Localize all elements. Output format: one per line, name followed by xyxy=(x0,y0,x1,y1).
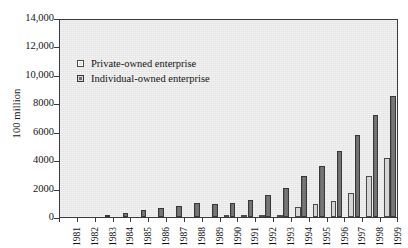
legend-item-private-owned: Private-owned enterprise xyxy=(77,56,210,71)
x-axis-tick-label: 1992 xyxy=(268,220,278,246)
bar-individual-owned xyxy=(319,166,325,217)
y-axis-tick-label: 10,000 xyxy=(6,70,54,80)
legend-label-private-owned: Private-owned enterprise xyxy=(91,58,196,69)
bar-group xyxy=(203,20,221,217)
x-axis-tick-label: 1999 xyxy=(393,220,403,246)
x-axis-tick-label: 1981 xyxy=(72,220,82,246)
x-axis-tick-label: 1995 xyxy=(322,220,332,246)
bar-group xyxy=(381,20,398,217)
x-axis-tick-label: 1988 xyxy=(197,220,207,246)
bars-layer xyxy=(60,20,397,217)
y-axis-tick-label: 12,000 xyxy=(6,41,54,51)
y-axis-tick-label: 8000 xyxy=(6,98,54,108)
x-axis-tick-label: 1994 xyxy=(304,220,314,246)
x-axis-tick-label: 1983 xyxy=(108,220,118,246)
bar-private-owned xyxy=(313,204,319,217)
y-axis-tick-labels: 14,00012,00010,00080006000400020000 xyxy=(0,0,54,248)
bar-group xyxy=(131,20,149,217)
bar-group xyxy=(256,20,274,217)
bar-group xyxy=(149,20,167,217)
bar-individual-owned xyxy=(301,176,307,217)
plot-area xyxy=(59,19,398,218)
y-axis-tick-label: 4000 xyxy=(6,155,54,165)
legend-swatch-icon-private-owned xyxy=(77,60,84,67)
bar-private-owned xyxy=(224,215,230,217)
bar-individual-owned xyxy=(337,151,343,217)
bar-group xyxy=(310,20,328,217)
bar-individual-owned xyxy=(265,195,271,217)
x-axis-tick-label: 1987 xyxy=(179,220,189,246)
bar-individual-owned xyxy=(123,213,129,217)
bar-group xyxy=(60,20,78,217)
x-axis-tick-labels: 1981198219831984198519861987198819891990… xyxy=(59,222,398,248)
bar-private-owned xyxy=(331,201,337,217)
bar-group xyxy=(185,20,203,217)
bar-individual-owned xyxy=(158,208,164,217)
bar-group xyxy=(274,20,292,217)
x-axis-tick-label: 1982 xyxy=(90,220,100,246)
bar-individual-owned xyxy=(355,135,361,217)
legend-label-individual-owned: Individual-owned enterprise xyxy=(91,73,210,84)
x-axis-tick-label: 1990 xyxy=(233,220,243,246)
x-axis-tick-label: 1984 xyxy=(125,220,135,246)
bar-group xyxy=(167,20,185,217)
bar-group xyxy=(221,20,239,217)
x-axis-tick-label: 1991 xyxy=(250,220,260,246)
bar-individual-owned xyxy=(230,203,236,217)
x-axis-tick-label: 1993 xyxy=(286,220,296,246)
legend: Private-owned enterprise Individual-owne… xyxy=(73,54,214,88)
bar-private-owned xyxy=(295,207,301,217)
bar-group xyxy=(292,20,310,217)
bar-group xyxy=(363,20,381,217)
bar-individual-owned xyxy=(176,206,182,217)
bar-group xyxy=(114,20,132,217)
x-axis-tick-label: 1997 xyxy=(357,220,367,246)
bar-private-owned xyxy=(277,215,283,217)
y-axis-tick-label: 14,000 xyxy=(6,13,54,23)
x-axis-tick-label: 1989 xyxy=(215,220,225,246)
x-axis-tick-label: 1996 xyxy=(340,220,350,246)
y-axis-tick-label: 2000 xyxy=(6,184,54,194)
bar-individual-owned xyxy=(105,215,111,217)
bar-individual-owned xyxy=(283,188,289,217)
bar-individual-owned xyxy=(390,96,396,217)
y-axis-tick-label: 0 xyxy=(6,212,54,222)
x-axis-tick-label: 1986 xyxy=(161,220,171,246)
bar-group xyxy=(96,20,114,217)
bar-private-owned xyxy=(259,215,265,217)
legend-swatch-icon-individual-owned xyxy=(77,75,84,82)
bar-private-owned xyxy=(348,193,354,217)
y-axis-tick-label: 6000 xyxy=(6,127,54,137)
bar-individual-owned xyxy=(248,200,254,217)
bar-group xyxy=(238,20,256,217)
legend-item-individual-owned: Individual-owned enterprise xyxy=(77,71,210,86)
bar-group xyxy=(345,20,363,217)
bar-private-owned xyxy=(366,176,372,217)
bar-individual-owned xyxy=(141,210,147,217)
bar-group xyxy=(78,20,96,217)
bar-group xyxy=(328,20,346,217)
x-axis-tick-label: 1998 xyxy=(375,220,385,246)
bar-individual-owned xyxy=(212,204,218,218)
bar-private-owned xyxy=(384,158,390,217)
bar-individual-owned xyxy=(194,203,200,217)
bar-chart: 100 million 14,00012,00010,0008000600040… xyxy=(0,0,408,248)
bar-individual-owned xyxy=(373,115,379,217)
x-axis-tick-label: 1985 xyxy=(143,220,153,246)
bar-private-owned xyxy=(241,215,247,217)
